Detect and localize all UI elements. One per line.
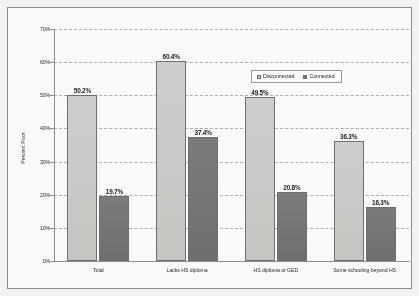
y-axis-tick-mark (50, 261, 54, 262)
y-axis-tick-label: 40% (26, 125, 50, 131)
x-axis-category-label: Some schooling beyond HS (320, 267, 409, 273)
bar-connected[interactable]: 20.8% (277, 192, 307, 261)
legend-entry[interactable]: Connected (303, 74, 334, 79)
y-axis-tick-label: 60% (26, 59, 50, 65)
bar-value-label: 60.4% (163, 53, 180, 60)
bar-disconnected[interactable]: 36.3% (334, 141, 364, 261)
legend-label: Connected (309, 74, 334, 79)
bar-group-bars: 49.5%20.8% (232, 29, 321, 261)
y-axis-tick-label: 50% (26, 92, 50, 98)
y-axis-tick-label: 10% (26, 225, 50, 231)
bar-disconnected[interactable]: 49.5% (245, 97, 275, 261)
bar-value-label: 50.2% (74, 87, 91, 94)
x-axis-category-label: Lacks HS diploma (143, 267, 232, 273)
y-axis-tick-mark (50, 195, 54, 196)
y-axis-tick-mark (50, 162, 54, 163)
bar-value-label: 16.3% (372, 199, 389, 206)
y-axis-title: Percent Poor (20, 103, 26, 193)
bar-group: 49.5%20.8% (232, 29, 321, 261)
bar-value-label: 19.7% (106, 188, 123, 195)
figure-frame: Percent Poor 70%60%50%40%30%20%10%0% 50.… (7, 7, 412, 289)
plot-area: 50.2%19.7%60.4%37.4%49.5%20.8%36.3%16.3% (54, 29, 409, 261)
bar-group: 36.3%16.3% (320, 29, 409, 261)
legend-swatch-icon (303, 75, 307, 79)
bar-value-label: 36.3% (340, 133, 357, 140)
gridline (54, 261, 409, 262)
bar-disconnected[interactable]: 50.2% (67, 95, 97, 261)
bar-group: 60.4%37.4% (143, 29, 232, 261)
legend-label: Disconnected (263, 74, 294, 79)
x-axis-category-label: HS diploma or GED (232, 267, 321, 273)
y-axis-tick-label: 70% (26, 26, 50, 32)
y-axis-tick-label: 20% (26, 192, 50, 198)
x-axis-category-label: Total (54, 267, 143, 273)
bar-value-label: 49.5% (251, 89, 268, 96)
bar-connected[interactable]: 16.3% (366, 207, 396, 261)
chart-page: Percent Poor 70%60%50%40%30%20%10%0% 50.… (0, 0, 419, 296)
bar-connected[interactable]: 37.4% (188, 137, 218, 261)
chart-legend: DisconnectedConnected (251, 70, 342, 83)
legend-swatch-icon (257, 75, 261, 79)
bar-value-label: 37.4% (195, 129, 212, 136)
y-axis-tick-mark (50, 228, 54, 229)
bar-group: 50.2%19.7% (54, 29, 143, 261)
y-axis-tick-mark (50, 95, 54, 96)
y-axis-tick-mark (50, 62, 54, 63)
bar-connected[interactable]: 19.7% (99, 196, 129, 261)
y-axis-tick-mark (50, 128, 54, 129)
bar-group-bars: 36.3%16.3% (320, 29, 409, 261)
y-axis-tick-mark (50, 29, 54, 30)
bar-group-bars: 60.4%37.4% (143, 29, 232, 261)
bar-group-bars: 50.2%19.7% (54, 29, 143, 261)
y-axis-tick-label: 30% (26, 159, 50, 165)
y-axis-tick-label: 0% (26, 258, 50, 264)
bar-value-label: 20.8% (283, 184, 300, 191)
legend-entry[interactable]: Disconnected (257, 74, 294, 79)
bar-disconnected[interactable]: 60.4% (156, 61, 186, 261)
